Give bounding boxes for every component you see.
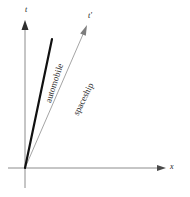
t-prime-axis-arrowhead: [80, 25, 87, 36]
t-prime-axis-label: t': [88, 12, 92, 20]
x-axis-arrowhead: [157, 165, 166, 171]
t-axis-arrowhead: [22, 20, 29, 30]
spacetime-diagram: t t' x automobile spaceship: [0, 0, 190, 197]
diagram-canvas: [0, 0, 190, 197]
automobile-worldline: [25, 39, 52, 168]
t-axis-label: t: [25, 6, 27, 14]
x-axis-label: x: [170, 163, 174, 171]
spaceship-worldline: [25, 32, 84, 168]
